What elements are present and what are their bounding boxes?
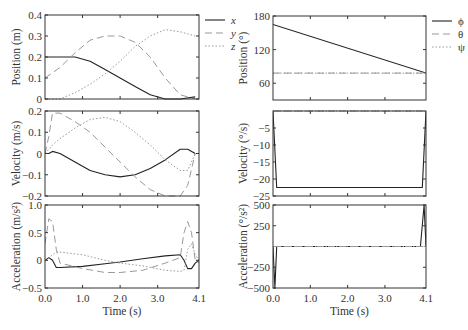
legend-label: ψ: [458, 41, 465, 53]
y-tick-label: −10: [253, 139, 271, 151]
y-tick-label: 250: [254, 220, 271, 232]
y-tick-label: 0: [37, 148, 43, 160]
legend: xyz: [205, 14, 236, 52]
y-tick-label: 0.1: [28, 126, 42, 138]
figure: 00.10.20.30.4Position (m)xyz−0.2−0.100.1…: [0, 0, 468, 330]
y-tick-label: 0.4: [28, 9, 42, 21]
plot-frame: [45, 111, 199, 196]
y-tick-label: 0.1: [28, 72, 42, 84]
x-tick-label: 3.0: [151, 292, 165, 304]
y-tick-label: −0.1: [22, 169, 42, 181]
y-tick-label: 1.0: [28, 199, 42, 211]
x-tick-label: 3.0: [378, 292, 392, 304]
y-tick-label: −5: [258, 122, 270, 134]
y-axis-label: Velocity (°/s): [237, 123, 250, 184]
x-tick-label: 2.0: [113, 292, 127, 304]
y-axis-label: Velocity (m/s): [10, 121, 23, 187]
y-tick-label: 0.5: [28, 227, 42, 239]
legend-label: y: [230, 27, 236, 39]
series-left-velocity-0: [45, 149, 195, 177]
plot-frame: [273, 111, 426, 196]
y-tick-label: 0: [37, 254, 43, 266]
legend: ϕθψ: [432, 15, 465, 53]
y-tick-label: 0.2: [28, 105, 42, 117]
left-position-panel: 00.10.20.30.4Position (m)xyz: [10, 9, 236, 105]
series-left-acceleration-0: [45, 255, 199, 269]
y-tick-label: 60: [259, 77, 271, 89]
x-tick-label: 0.0: [38, 292, 52, 304]
series-right-velocity-0: [273, 111, 426, 188]
x-tick-label: 4.1: [419, 292, 433, 304]
y-tick-label: −15: [253, 156, 271, 168]
y-tick-label: −250: [247, 261, 270, 273]
y-axis-label: Position (m): [10, 28, 23, 85]
x-tick-label: 0.0: [266, 292, 280, 304]
right-acceleration-panel: −500−2502505000.01.02.03.04.1Time (s)Acc…: [237, 199, 433, 318]
series-left-position-2: [45, 30, 195, 99]
y-tick-label: 0: [37, 93, 43, 105]
x-tick-label: 1.0: [76, 292, 90, 304]
y-axis-label: Position (°): [237, 31, 250, 84]
legend-label: z: [230, 40, 236, 52]
x-axis-label: Time (s): [103, 305, 142, 318]
legend-label: θ: [458, 28, 463, 40]
left-acceleration-panel: −0.500.51.00.01.02.03.04.1Time (s)Accele…: [10, 199, 206, 318]
series-left-position-1: [45, 36, 195, 99]
y-tick-label: −20: [253, 173, 271, 185]
series-left-acceleration-1: [45, 219, 199, 273]
x-tick-label: 2.0: [341, 292, 355, 304]
right-velocity-panel: −25−20−15−10−5Velocity (°/s): [237, 111, 426, 202]
y-tick-label: 180: [254, 10, 271, 22]
y-tick-label: 120: [254, 44, 271, 56]
legend-label: x: [230, 14, 236, 26]
y-tick-label: 0.2: [28, 51, 42, 63]
y-axis-label: Acceleration (°/s²): [237, 204, 250, 289]
left-velocity-panel: −0.2−0.100.10.2Velocity (m/s): [10, 105, 199, 202]
x-tick-label: 1.0: [303, 292, 317, 304]
x-axis-label: Time (s): [330, 305, 369, 318]
x-tick-label: 4.1: [192, 292, 206, 304]
series-left-position-0: [45, 57, 195, 99]
y-axis-label: Acceleration (m/s²): [10, 202, 23, 292]
plot-frame: [45, 205, 199, 288]
y-tick-label: 500: [254, 199, 271, 211]
plot-frame: [273, 16, 426, 100]
legend-label: ϕ: [458, 15, 464, 27]
y-tick-label: 0.3: [28, 30, 42, 42]
right-position-panel: 60120180Position (°)ϕθψ: [237, 10, 465, 100]
series-right-position-0: [273, 24, 426, 73]
